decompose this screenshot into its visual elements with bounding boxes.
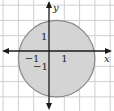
y-tick-label: 1 [41, 31, 47, 42]
plot-svg: yx−111−1 [0, 0, 114, 111]
y-axis-label: y [52, 2, 59, 13]
x-tick-label: 1 [61, 53, 67, 64]
y-tick-label: −1 [33, 61, 48, 72]
y-axis-up-arrow-icon [46, 1, 52, 8]
y-axis-down-arrow-icon [46, 103, 52, 110]
coordinate-plane: yx−111−1 [0, 0, 114, 111]
x-axis-label: x [104, 53, 110, 64]
